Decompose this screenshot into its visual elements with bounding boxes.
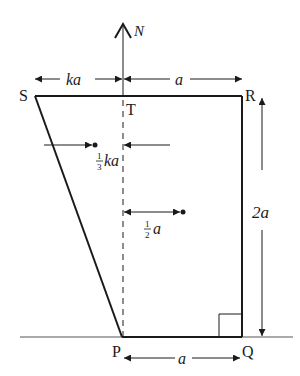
vertex-R-label: R xyxy=(245,87,256,104)
dim-a-base-label: a xyxy=(178,350,186,367)
svg-text:a: a xyxy=(153,220,161,237)
right-angle-marker xyxy=(219,314,242,337)
svg-text:3: 3 xyxy=(97,162,102,172)
vertex-Q-label: Q xyxy=(242,343,254,360)
svg-text:1: 1 xyxy=(145,219,150,229)
normal-force-label: N xyxy=(133,23,145,39)
dim-ka-label: ka xyxy=(66,71,81,88)
vertex-S-label: S xyxy=(19,87,28,104)
rect-centroid-dot xyxy=(181,210,186,215)
triangle-centroid-offset-label: 1 3 ka xyxy=(96,151,119,172)
svg-text:1: 1 xyxy=(97,151,102,161)
triangle-centroid-dot xyxy=(93,143,98,148)
rect-centroid-offset-label: 1 2 a xyxy=(144,219,161,240)
lamina-outline xyxy=(35,96,242,337)
diagram-canvas: N ka a S T R P Q 2a 1 3 ka 1 2 a a xyxy=(0,0,300,376)
vertex-P-label: P xyxy=(112,343,121,360)
svg-text:ka: ka xyxy=(104,152,119,169)
dim-2a-label: 2a xyxy=(252,203,269,222)
dim-a-top-label: a xyxy=(175,71,183,88)
svg-text:2: 2 xyxy=(145,230,150,240)
vertex-T-label: T xyxy=(126,101,136,118)
